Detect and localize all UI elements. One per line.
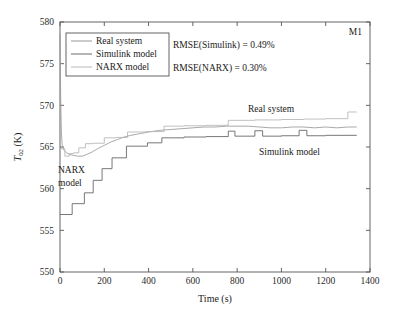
figure-container: 0200400600800100012001400550555560565570… [0, 0, 399, 319]
svg-text:T02 (K): T02 (K) [12, 133, 24, 162]
label-real-system: Real system [248, 104, 295, 114]
x-tick-label: 0 [58, 276, 63, 286]
y-axis-title: T02 (K) [12, 133, 24, 162]
legend-label-simulink-model: Simulink model [96, 49, 157, 59]
x-tick-label: 800 [230, 276, 245, 286]
x-tick-label: 200 [97, 276, 112, 286]
label-simulink-model: Simulink model [259, 147, 320, 157]
y-tick-label: 580 [40, 17, 55, 27]
chart-canvas: 0200400600800100012001400550555560565570… [0, 0, 399, 319]
x-tick-label: 600 [186, 276, 201, 286]
x-tick-label: 1000 [272, 276, 291, 286]
rmse-narx: RMSE(NARX) = 0.30% [173, 63, 267, 74]
y-tick-label: 570 [40, 101, 55, 111]
legend-group: Real systemSimulink modelNARX model [66, 33, 169, 76]
y-tick-label: 555 [40, 226, 55, 236]
y-tick-label: 560 [40, 184, 55, 194]
x-axis-title: Time (s) [198, 293, 232, 305]
x-tick-label: 1400 [361, 276, 380, 286]
x-tick-label: 1200 [316, 276, 335, 286]
rmse-simulink: RMSE(Simulink) = 0.49% [173, 40, 275, 51]
legend-label-narx-model: NARX model [96, 62, 149, 72]
y-tick-label: 565 [40, 142, 55, 152]
corner-label-m1: M1 [349, 27, 362, 37]
y-tick-label: 550 [40, 267, 55, 277]
label-narx-model-line1: NARX [58, 165, 85, 175]
y-tick-label: 575 [40, 59, 55, 69]
legend-label-real-system: Real system [96, 36, 143, 46]
label-narx-model-line2: model [58, 178, 82, 188]
x-tick-label: 400 [141, 276, 156, 286]
